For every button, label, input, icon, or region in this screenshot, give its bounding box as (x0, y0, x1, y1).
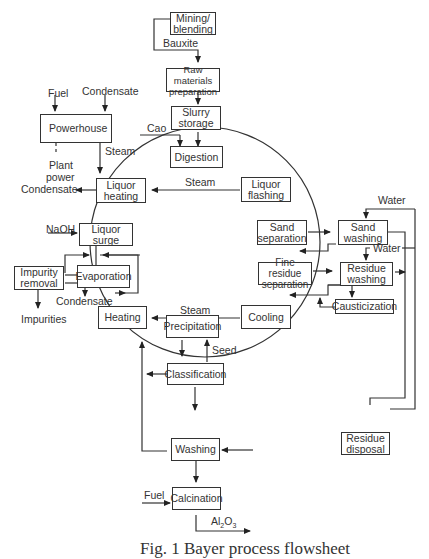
liquor-flashing-box: Liquor flashing (241, 177, 291, 202)
powerhouse-box: Powerhouse (40, 114, 112, 143)
plant-label: Plant (49, 160, 73, 171)
raw-materials-box: Raw materials preparation (166, 68, 220, 92)
water-mid-label: Water (373, 243, 401, 254)
condensate-out-label: Condensate (21, 184, 78, 195)
sand-separation-box: Sand separation (257, 220, 307, 245)
condensate-label: Condensate (82, 86, 139, 97)
al2o3-al: Al (211, 515, 220, 527)
steam-label: Steam (105, 146, 135, 157)
fuel-label: Fuel (48, 88, 68, 99)
mining-blending-box: Mining/ blending (170, 12, 216, 35)
water-top-label: Water (378, 195, 406, 206)
impurities-label: Impurities (21, 314, 67, 325)
fuel-calcination-label: Fuel (144, 490, 164, 501)
power-label: power (46, 172, 75, 183)
fine-residue-separation-box: Fine residue separation (258, 262, 312, 285)
evaporation-box: Evaporation (77, 265, 130, 288)
impurity-removal-box: Impurity removal (14, 266, 64, 290)
precipitation-box: Precipitation (166, 315, 219, 338)
figure-caption: Fig. 1 Bayer process flowsheet (140, 539, 350, 559)
slurry-storage-box: Slurry storage (171, 106, 221, 130)
al2o3-sub2: 3 (232, 522, 236, 529)
causticization-box: Causticization (335, 299, 394, 314)
digestion-box: Digestion (170, 146, 223, 168)
heating-box: Heating (98, 306, 147, 329)
steam-cool-label: Steam (180, 305, 210, 316)
washing-box: Washing (171, 438, 220, 461)
al2o3-label: Al2O3 (211, 516, 236, 531)
bauxite-label: Bauxite (163, 38, 198, 49)
condensate-evap-label: Condensate (56, 296, 113, 307)
classification-box: Classification (167, 363, 224, 385)
seed-label: Seed (212, 345, 237, 356)
calcination-box: Calcination (172, 487, 221, 510)
liquor-surge-box: Liquor surge (79, 223, 133, 246)
naoh-label: NaOH (46, 224, 75, 235)
steam-flash-label: Steam (185, 177, 215, 188)
cooling-box: Cooling (241, 305, 291, 329)
residue-washing-box: Residue washing (340, 262, 393, 286)
liquor-heating-box: Liquor heating (96, 178, 146, 203)
cao-label: Cao (147, 123, 166, 134)
residue-disposal-box: Residue disposal (341, 432, 390, 455)
